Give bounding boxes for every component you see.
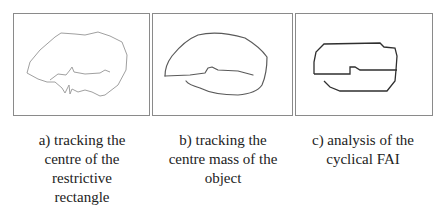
panel-b-frame <box>152 13 293 116</box>
caption-a-line-3: restrictive <box>16 169 148 188</box>
caption-c-line-2: cyclical FAI <box>293 150 433 169</box>
caption-a-line-1: a) tracking the <box>16 131 148 150</box>
panel-c-frame <box>295 13 433 116</box>
caption-b-line-2: centre mass of the <box>152 150 294 169</box>
panel-a-frame <box>13 13 150 116</box>
caption-a-line-2: centre of the <box>16 150 148 169</box>
caption-b: b) tracking the centre mass of the objec… <box>152 131 294 188</box>
caption-c-line-1: c) analysis of the <box>293 131 433 150</box>
caption-a-line-4: rectangle <box>16 188 148 205</box>
caption-c: c) analysis of the cyclical FAI <box>293 131 433 169</box>
caption-b-line-1: b) tracking the <box>152 131 294 150</box>
caption-b-line-3: object <box>152 169 294 188</box>
caption-a: a) tracking the centre of the restrictiv… <box>16 131 148 205</box>
